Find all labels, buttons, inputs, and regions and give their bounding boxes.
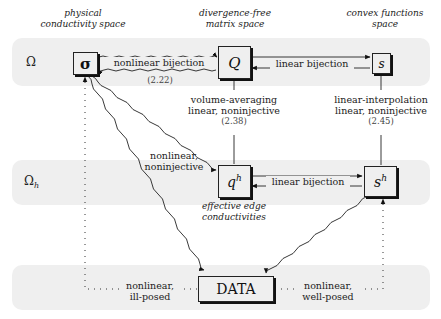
label-s-sh-line1: linear-interpolation — [318, 94, 441, 105]
eq-sigma-Q: (2.22) — [140, 75, 180, 86]
node-sh: sh — [364, 166, 397, 197]
node-sh-label: sh — [374, 173, 387, 190]
label-sigma-data-line1: nonlinear, — [120, 280, 180, 291]
label-Q-qh-line2: linear, noninjective — [174, 105, 294, 116]
label-sigma-qh: nonlinear, noninjective — [140, 150, 208, 172]
node-s-label: s — [378, 57, 384, 71]
qh-caption-line2: conductivities — [194, 212, 274, 223]
label-sigma-qh-line1: nonlinear, — [140, 150, 208, 161]
label-Q-qh: volume-averaging linear, noninjective (2… — [174, 94, 294, 127]
label-sh-data-line1: nonlinear, — [296, 280, 360, 291]
node-sigma-label: σ — [80, 55, 91, 73]
label-s-sh-line2: linear, noninjective — [318, 105, 441, 116]
label-sigma-data: nonlinear, ill-posed — [120, 280, 180, 302]
node-data: DATA — [198, 276, 274, 302]
eq-Q-qh: (2.38) — [174, 116, 294, 127]
node-Q: Q — [218, 46, 251, 79]
node-qh-base: q — [227, 174, 236, 190]
eq-s-sh: (2.45) — [318, 116, 441, 127]
qh-caption-line1: effective edge — [194, 201, 274, 212]
node-qh: qh — [218, 165, 251, 198]
label-sigma-data-line2: ill-posed — [120, 291, 180, 302]
node-s: s — [372, 53, 391, 74]
node-data-label: DATA — [216, 281, 255, 297]
edge-data-to-sh-dotted — [275, 199, 383, 289]
node-qh-label: qh — [227, 173, 242, 190]
label-sh-data-line2: well-posed — [296, 291, 360, 302]
node-sh-sup: h — [381, 173, 387, 183]
label-Q-s: linear bijection — [270, 58, 354, 69]
edge-sh-to-data — [266, 197, 366, 273]
label-sigma-Q: nonlinear bijection — [104, 57, 214, 68]
qh-caption: effective edge conductivities — [194, 201, 274, 223]
label-sigma-qh-line2: noninjective — [140, 161, 208, 172]
node-qh-sup: h — [236, 173, 242, 183]
label-s-sh: linear-interpolation linear, noninjectiv… — [318, 94, 441, 127]
label-Q-qh-line1: volume-averaging — [174, 94, 294, 105]
node-sigma: σ — [73, 52, 98, 75]
label-qh-sh: linear bijection — [266, 176, 350, 187]
node-Q-label: Q — [228, 54, 240, 72]
edge-Q-to-sigma — [98, 69, 216, 71]
label-sh-data: nonlinear, well-posed — [296, 280, 360, 302]
